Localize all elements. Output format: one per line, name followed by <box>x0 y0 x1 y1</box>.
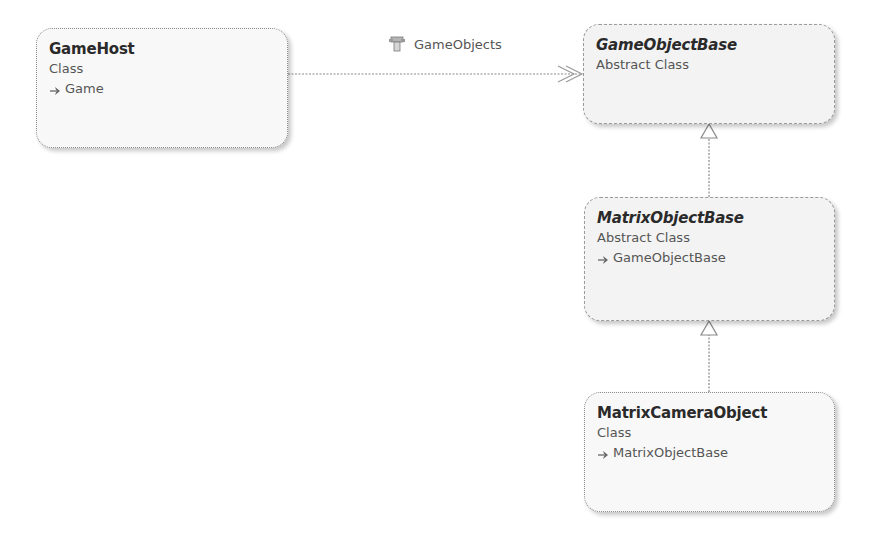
inherits-arrow-icon <box>597 447 609 459</box>
inheritance-connector-matrixobjectbase[interactable] <box>701 124 717 197</box>
class-shape-matrixcameraobject[interactable]: MatrixCameraObject Class MatrixObjectBas… <box>584 392 835 512</box>
class-name: MatrixObjectBase <box>597 208 822 228</box>
class-kind: Abstract Class <box>596 55 822 75</box>
class-diagram-canvas: GameObjects GameHost Class Game GameObje… <box>0 0 876 542</box>
association-label-text: GameObjects <box>414 37 502 52</box>
class-kind: Class <box>597 423 822 443</box>
property-icon <box>388 36 406 52</box>
base-type: GameObjectBase <box>597 248 822 268</box>
class-kind: Class <box>49 59 275 79</box>
base-type-name: Game <box>65 79 104 99</box>
base-type-name: MatrixObjectBase <box>613 443 728 463</box>
association-connector-gameobjects[interactable] <box>288 66 582 82</box>
base-type: Game <box>49 79 275 99</box>
class-name: GameObjectBase <box>596 35 822 55</box>
class-shape-gameobjectbase[interactable]: GameObjectBase Abstract Class <box>583 24 835 124</box>
class-name: MatrixCameraObject <box>597 403 822 423</box>
class-kind: Abstract Class <box>597 228 822 248</box>
class-name: GameHost <box>49 39 275 59</box>
inheritance-connector-matrixcameraobject[interactable] <box>701 321 717 392</box>
inherits-arrow-icon <box>49 83 61 95</box>
base-type: MatrixObjectBase <box>597 443 822 463</box>
base-type-name: GameObjectBase <box>613 248 726 268</box>
association-label-gameobjects[interactable]: GameObjects <box>388 36 502 52</box>
class-shape-gamehost[interactable]: GameHost Class Game <box>36 28 288 148</box>
class-shape-matrixobjectbase[interactable]: MatrixObjectBase Abstract Class GameObje… <box>584 197 835 321</box>
inherits-arrow-icon <box>597 252 609 264</box>
